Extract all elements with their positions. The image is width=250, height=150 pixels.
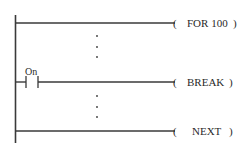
contact-label-on: On [25,66,37,77]
ellipsis-dots [96,95,98,118]
coil-close-paren: ) [229,76,233,89]
coil-open-paren: ( [173,125,177,138]
ladder-diagram: ( FOR 100 ) On ( BREAK ) ( NEXT ) [0,0,250,150]
coil-label-break: BREAK [187,76,224,88]
coil-close-paren: ) [229,125,233,138]
normally-open-contact-icon [26,76,38,88]
coil-open-paren: ( [173,76,177,89]
coil-open-paren: ( [173,17,177,30]
coil-close-paren: ) [233,17,237,30]
ellipsis-dots [96,35,98,58]
rung-break: On ( BREAK ) [16,66,234,89]
rung-next: ( NEXT ) [16,125,234,138]
coil-label-for: FOR 100 [187,17,228,29]
coil-label-next: NEXT [192,125,222,137]
rung-for: ( FOR 100 ) [16,17,238,30]
